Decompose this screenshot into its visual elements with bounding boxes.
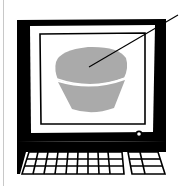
keyboard-icon bbox=[17, 141, 166, 174]
computer-illustration bbox=[0, 0, 179, 188]
power-button-icon bbox=[136, 131, 141, 136]
